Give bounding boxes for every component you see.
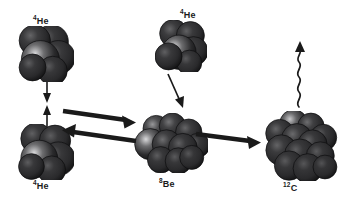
label-he4-top-left: 4He: [33, 17, 49, 26]
symbol-c12: C: [291, 183, 298, 193]
gamma-ray-wavy-arrow-icon: [295, 41, 305, 107]
label-c12: 12C: [283, 184, 297, 193]
label-he4-top-middle: 4He: [180, 11, 196, 20]
triple-alpha-process-figure: 4He 4He 4He 8Be 12C: [0, 0, 345, 208]
nucleus-he4-top-middle: [155, 20, 207, 72]
label-be8: 8Be: [159, 180, 175, 189]
nucleus-he4-top-left: [18, 26, 74, 82]
arrow-he4-downward-icon: [43, 82, 51, 103]
symbol-be8: Be: [163, 179, 175, 189]
nucleus-he4-bottom-left: [18, 124, 74, 180]
symbol-he4-bottom-left: He: [37, 181, 49, 191]
mass-number-c12: 12: [283, 181, 291, 188]
arrow-he4-to-be8-icon: [168, 74, 184, 108]
nucleus-be8: [134, 113, 208, 173]
label-he4-bottom-left: 4He: [33, 182, 49, 191]
symbol-he4-top-left: He: [37, 16, 49, 26]
nucleus-c12: [261, 111, 339, 181]
symbol-he4-top-middle: He: [184, 10, 196, 20]
